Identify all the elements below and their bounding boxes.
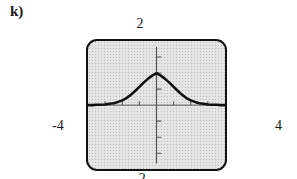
x-min-label: -4 <box>52 119 64 133</box>
graph-figure: k) 2 -4 4 -2 <box>0 0 297 179</box>
x-max-label: 4 <box>275 119 282 133</box>
y-max-label: 2 <box>0 17 289 31</box>
y-min-label: -2 <box>0 172 289 179</box>
plot-canvas <box>88 41 225 169</box>
calculator-screen <box>86 39 227 171</box>
